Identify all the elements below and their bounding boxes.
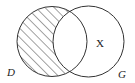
set-label-g: G: [118, 68, 126, 80]
set-label-d: D: [6, 66, 15, 78]
venn-diagram: X D G: [0, 0, 135, 83]
region-label-g-only: X: [96, 37, 104, 49]
